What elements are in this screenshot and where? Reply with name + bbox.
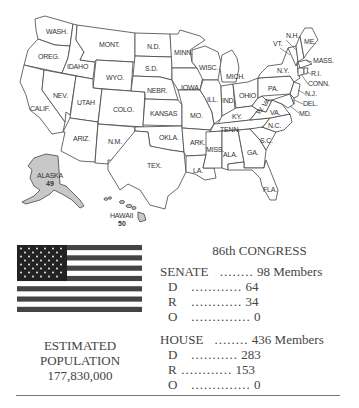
house-row-r: R ............ 153 bbox=[168, 362, 255, 377]
svg-text:WISC.: WISC. bbox=[199, 64, 218, 71]
party-label: R bbox=[168, 294, 188, 309]
dot-leader: ........ bbox=[215, 332, 249, 347]
state-conn bbox=[298, 68, 304, 76]
svg-text:HAWAII: HAWAII bbox=[110, 212, 133, 219]
svg-text:MINN.: MINN. bbox=[174, 49, 193, 56]
svg-text:N.D.: N.D. bbox=[147, 43, 160, 50]
svg-text:S.C.: S.C. bbox=[260, 137, 273, 144]
house-label: HOUSE bbox=[160, 332, 203, 347]
party-label: O bbox=[168, 309, 188, 324]
party-label: R bbox=[168, 362, 178, 377]
party-value: 0 bbox=[254, 377, 261, 392]
svg-text:IDAHO: IDAHO bbox=[67, 63, 89, 70]
svg-text:PA.: PA. bbox=[268, 85, 278, 92]
svg-text:N.M.: N.M. bbox=[108, 138, 122, 145]
svg-text:DEL.: DEL. bbox=[303, 100, 318, 107]
svg-text:OHIO: OHIO bbox=[239, 92, 257, 99]
house-total-row: HOUSE ........ 436 Members bbox=[160, 332, 324, 347]
svg-text:TEX.: TEX. bbox=[147, 162, 162, 169]
party-label: D bbox=[168, 279, 188, 294]
house-total: 436 Members bbox=[252, 332, 324, 347]
svg-text:MD.: MD. bbox=[299, 110, 311, 117]
dot-leader: ........ bbox=[220, 264, 254, 279]
senate-row-d: D ............ 64 bbox=[168, 279, 259, 294]
svg-text:49: 49 bbox=[46, 180, 54, 187]
svg-text:ALA.: ALA. bbox=[223, 151, 238, 158]
svg-text:NEV.: NEV. bbox=[53, 92, 68, 99]
svg-text:OKLA.: OKLA. bbox=[159, 134, 179, 141]
svg-text:ILL.: ILL. bbox=[207, 96, 218, 103]
dot-leader: .............. bbox=[191, 309, 251, 324]
svg-text:KY.: KY. bbox=[232, 113, 242, 120]
population-label-line1: ESTIMATED bbox=[20, 338, 140, 353]
senate-row-o: O .............. 0 bbox=[168, 309, 261, 324]
svg-text:TENN.: TENN. bbox=[220, 126, 240, 133]
senate-label: SENATE bbox=[160, 264, 208, 279]
population-label-line2: POPULATION bbox=[20, 353, 140, 368]
svg-text:MONT.: MONT. bbox=[99, 41, 120, 48]
us-flag bbox=[17, 245, 142, 312]
party-value: 64 bbox=[246, 279, 259, 294]
svg-text:50: 50 bbox=[118, 220, 126, 227]
svg-text:VA.: VA. bbox=[270, 109, 280, 116]
svg-text:N.J.: N.J. bbox=[305, 90, 317, 97]
svg-text:ARIZ.: ARIZ. bbox=[73, 135, 90, 142]
party-label: D bbox=[168, 347, 188, 362]
svg-text:N.Y.: N.Y. bbox=[277, 67, 289, 74]
svg-text:CONN.: CONN. bbox=[308, 80, 330, 87]
congress-title: 86th CONGRESS bbox=[160, 243, 359, 259]
svg-text:WYO.: WYO. bbox=[106, 74, 124, 81]
party-value: 0 bbox=[254, 309, 261, 324]
svg-text:MASS.: MASS. bbox=[313, 57, 334, 64]
dot-leader: ............ bbox=[191, 294, 242, 309]
dot-leader: ........... bbox=[191, 347, 238, 362]
population-value: 177,830,000 bbox=[20, 368, 140, 383]
svg-text:MISS.: MISS. bbox=[206, 146, 224, 153]
state-ri bbox=[304, 68, 308, 74]
svg-text:IOWA: IOWA bbox=[181, 84, 199, 91]
svg-text:FLA.: FLA. bbox=[263, 186, 277, 193]
svg-text:OREG.: OREG. bbox=[38, 53, 60, 60]
svg-text:S.D.: S.D. bbox=[145, 65, 158, 72]
svg-text:ALASKA: ALASKA bbox=[37, 172, 64, 179]
svg-text:CALIF.: CALIF. bbox=[30, 105, 50, 112]
party-value: 283 bbox=[241, 347, 261, 362]
svg-text:N.H.: N.H. bbox=[286, 32, 299, 39]
svg-text:WASH.: WASH. bbox=[46, 28, 68, 35]
dot-leader: ............ bbox=[181, 362, 232, 377]
party-label: O bbox=[168, 377, 188, 392]
party-value: 153 bbox=[236, 362, 256, 377]
us-map: WASH. OREG. CALIF. IDAHO NEV. MONT. WYO.… bbox=[0, 0, 359, 230]
divider-rule bbox=[16, 395, 340, 396]
svg-text:ME.: ME. bbox=[304, 38, 316, 45]
svg-text:IND.: IND. bbox=[222, 97, 235, 104]
svg-text:KANSAS: KANSAS bbox=[150, 110, 178, 117]
party-value: 34 bbox=[246, 294, 259, 309]
dot-leader: ............ bbox=[191, 279, 242, 294]
svg-text:COLO.: COLO. bbox=[113, 106, 134, 113]
svg-text:UTAH: UTAH bbox=[77, 99, 95, 106]
senate-total: 98 Members bbox=[257, 264, 322, 279]
senate-total-row: SENATE ........ 98 Members bbox=[160, 264, 322, 279]
svg-text:R.I.: R.I. bbox=[311, 70, 321, 77]
dot-leader: .............. bbox=[191, 377, 251, 392]
house-row-d: D ........... 283 bbox=[168, 347, 261, 362]
svg-text:N.C.: N.C. bbox=[268, 122, 281, 129]
svg-text:VT.: VT. bbox=[273, 40, 283, 47]
svg-text:ARK.: ARK. bbox=[190, 139, 206, 146]
svg-text:GA.: GA. bbox=[247, 149, 259, 156]
svg-text:MICH.: MICH. bbox=[226, 73, 245, 80]
svg-text:LA.: LA. bbox=[193, 167, 203, 174]
house-row-o: O .............. 0 bbox=[168, 377, 261, 392]
flag-canton bbox=[17, 245, 67, 281]
svg-text:NEBR.: NEBR. bbox=[147, 87, 168, 94]
population-block: ESTIMATED POPULATION 177,830,000 bbox=[20, 338, 140, 383]
svg-text:MO.: MO. bbox=[190, 112, 203, 119]
senate-row-r: R ............ 34 bbox=[168, 294, 259, 309]
